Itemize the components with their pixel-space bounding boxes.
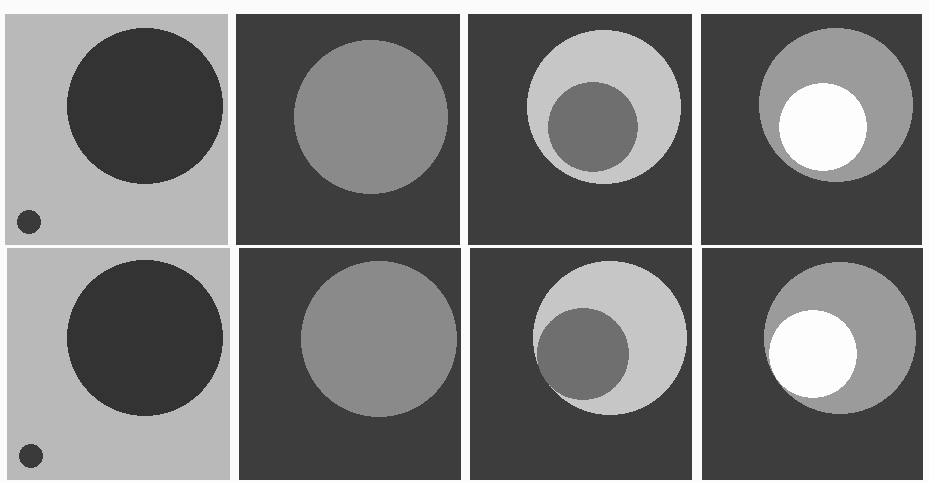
disk-shape [548,82,638,172]
image-panel-r1c4 [701,14,922,245]
image-panel-r2c3 [470,248,692,480]
disk-shape [301,261,457,417]
image-panel-r2c1 [7,248,230,480]
image-panel-r1c2 [236,14,460,245]
disk-shape [294,40,448,194]
disk-shape [67,28,223,184]
disk-shape [19,444,43,468]
image-grid [0,0,929,483]
disk-shape [779,83,867,171]
disk-shape [67,260,223,416]
disk-shape [537,308,629,400]
image-panel-r2c2 [239,248,461,480]
image-panel-r1c1 [5,14,228,245]
image-panel-r1c3 [468,14,692,245]
disk-shape [17,210,41,234]
image-panel-r2c4 [702,248,923,480]
disk-shape [769,310,857,398]
